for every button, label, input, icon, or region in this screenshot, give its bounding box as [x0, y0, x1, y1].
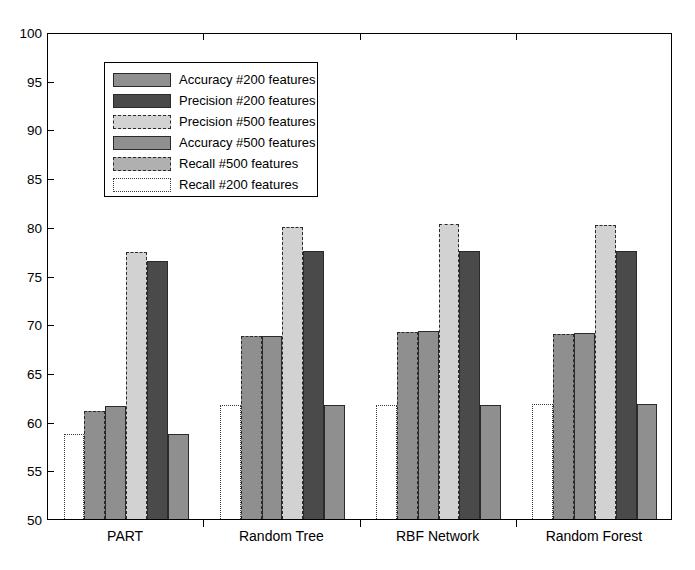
bar	[168, 434, 189, 519]
bar	[324, 405, 345, 519]
y-axis-tick-value: 85	[27, 172, 42, 187]
legend-label: Accuracy #500 features	[179, 135, 316, 150]
chart-legend: Accuracy #200 featuresPrecision #200 fea…	[104, 62, 318, 197]
x-axis-group-label: Random Tree	[239, 528, 324, 544]
y-axis-tick-value: 90	[27, 123, 42, 138]
y-axis-tick-value: 55	[27, 464, 42, 479]
bar	[459, 251, 480, 519]
y-axis-tick-value: 80	[27, 220, 42, 235]
bar	[439, 224, 460, 519]
bar	[595, 225, 616, 519]
bar	[105, 406, 126, 519]
bar	[282, 227, 303, 519]
legend-label: Precision #500 features	[179, 114, 316, 129]
legend-item: Recall #500 features	[113, 153, 311, 174]
bar	[64, 434, 85, 519]
legend-swatch	[113, 73, 171, 87]
legend-swatch	[113, 94, 171, 108]
y-axis-tick-value: 70	[27, 318, 42, 333]
bar	[303, 251, 324, 519]
bar	[220, 405, 241, 519]
x-axis-tick-mark	[516, 520, 517, 527]
legend-item: Accuracy #200 features	[113, 69, 311, 90]
bar	[147, 261, 168, 519]
legend-swatch	[113, 178, 171, 192]
legend-item: Precision #200 features	[113, 90, 311, 111]
bar	[126, 252, 147, 519]
legend-swatch	[113, 115, 171, 129]
x-axis-group-label: Random Forest	[546, 528, 642, 544]
bar-chart: 10095908580757065605550 PARTRandom TreeR…	[0, 0, 695, 570]
y-axis-tick-value: 100	[19, 26, 42, 41]
x-axis-tick-mark	[360, 520, 361, 527]
bar	[637, 404, 658, 519]
legend-label: Accuracy #200 features	[179, 72, 316, 87]
bar	[84, 411, 105, 519]
y-axis-tick-value: 50	[27, 513, 42, 528]
bar	[553, 334, 574, 519]
x-axis-group-label: PART	[107, 528, 143, 544]
legend-swatch	[113, 136, 171, 150]
y-axis-tick-value: 65	[27, 366, 42, 381]
legend-swatch	[113, 157, 171, 171]
bar	[397, 332, 418, 519]
bar	[376, 405, 397, 519]
legend-item: Accuracy #500 features	[113, 132, 311, 153]
y-axis-tick-value: 95	[27, 74, 42, 89]
bar	[480, 405, 501, 519]
bar	[574, 333, 595, 519]
bar	[616, 251, 637, 519]
bar	[532, 404, 553, 519]
bar	[262, 336, 283, 519]
bar	[241, 336, 262, 519]
legend-item: Recall #200 features	[113, 174, 311, 195]
y-axis-tick-value: 75	[27, 269, 42, 284]
bar	[418, 331, 439, 519]
legend-label: Recall #200 features	[179, 177, 298, 192]
legend-item: Precision #500 features	[113, 111, 311, 132]
legend-label: Precision #200 features	[179, 93, 316, 108]
x-axis-group-label: RBF Network	[396, 528, 479, 544]
y-axis-tick-value: 60	[27, 415, 42, 430]
x-axis-tick-mark	[203, 520, 204, 527]
legend-label: Recall #500 features	[179, 156, 298, 171]
